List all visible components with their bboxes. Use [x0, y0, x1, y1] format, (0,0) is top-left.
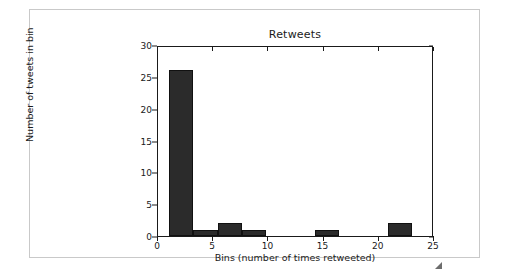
histogram-bar — [169, 70, 193, 236]
histogram-bars — [158, 47, 432, 236]
x-tick-label: 10 — [262, 241, 273, 251]
y-tick-label: 25 — [141, 73, 152, 83]
resize-handle-icon[interactable] — [434, 255, 443, 264]
x-tick-mark — [157, 47, 158, 51]
y-axis-label: Number of tweets in bin — [24, 27, 35, 142]
x-tick-mark — [323, 47, 324, 51]
x-tick-mark — [267, 47, 268, 51]
figure-page: Retweets Number of tweets in bin 0510152… — [0, 0, 505, 274]
chart-title: Retweets — [157, 28, 433, 41]
x-tick-label: 25 — [427, 241, 438, 251]
x-tick-label: 20 — [372, 241, 383, 251]
figure-frame: Retweets Number of tweets in bin 0510152… — [29, 9, 480, 258]
y-axis-tick-labels: 051015202530 — [130, 46, 152, 237]
histogram-bar — [388, 223, 412, 236]
y-tick-label: 10 — [141, 168, 152, 178]
y-tick-label: 30 — [141, 41, 152, 51]
y-tick-label: 20 — [141, 105, 152, 115]
x-tick-label: 15 — [317, 241, 328, 251]
x-tick-mark — [212, 47, 213, 51]
plot-area — [157, 46, 433, 237]
x-axis-label: Bins (number of times retweeted) — [157, 252, 433, 263]
x-tick-label: 5 — [209, 241, 215, 251]
x-tick-mark — [433, 47, 434, 51]
x-tick-label: 0 — [154, 241, 160, 251]
x-axis-tick-marks-top — [157, 47, 433, 48]
y-tick-label: 15 — [141, 137, 152, 147]
x-tick-mark — [378, 47, 379, 51]
histogram-bar — [218, 223, 242, 236]
x-axis-tick-marks — [157, 236, 433, 237]
